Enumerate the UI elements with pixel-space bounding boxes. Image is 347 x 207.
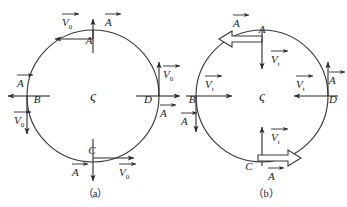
veclabel-acceleration-at-b: A (16, 75, 33, 89)
veclabel-velocity-at-a-b: Vt (271, 51, 288, 68)
veclabel-text-acceleration-at-c: A (71, 166, 79, 178)
caption-panel-b: （b） (253, 188, 278, 199)
veclabel-velocity-at-a: V0 (62, 14, 79, 31)
point-label-b-bottom: C (245, 160, 253, 172)
veclabel-acceleration-at-c: A (71, 164, 88, 178)
veclabel-text-velocity-at-d: V0 (163, 68, 174, 83)
point-label-a-top: A (85, 34, 93, 46)
point-label-b-right: D (328, 93, 337, 105)
point-label-a-right: D (143, 93, 152, 105)
veclabel-text-velocity-at-a-b: Vt (271, 53, 280, 68)
veclabel-text-velocity-at-d-b: Vt (296, 78, 305, 93)
veclabel-text-acceleration-at-b-b: A (180, 115, 188, 127)
veclabel-acceleration-at-c-b: A (267, 168, 284, 182)
veclabel-acceleration-at-d-b: A (328, 72, 345, 86)
veclabel-acceleration-at-a: A (104, 14, 121, 28)
veclabel-text-acceleration-at-b: A (16, 77, 24, 89)
veclabel-text-velocity-at-c: V0 (119, 166, 130, 181)
veclabel-text-velocity-at-c-b: Vt (271, 131, 280, 146)
veclabel-text-velocity-at-b-b: Vt (205, 78, 214, 93)
veclabel-velocity-at-c: V0 (119, 164, 136, 181)
veclabel-velocity-at-d-b: Vt (296, 76, 313, 93)
veclabel-text-acceleration-at-d-b: A (328, 74, 336, 86)
veclabel-text-acceleration-at-d: A (159, 107, 167, 119)
panel-a: ς A B C D V0 A A (8, 14, 180, 199)
veclabel-text-velocity-at-b: V0 (14, 114, 25, 129)
caption-panel-a: （a） (83, 188, 108, 199)
veclabel-text-velocity-at-a: V0 (62, 16, 73, 31)
veclabel-text-acceleration-at-a-b: A (232, 17, 240, 29)
point-label-a-left: B (34, 93, 41, 105)
center-symbol-a: ς (90, 88, 97, 104)
veclabel-velocity-at-c-b: Vt (271, 129, 288, 146)
point-label-b-left: B (189, 93, 196, 105)
circular-motion-diagram: ς A B C D V0 A A (0, 0, 347, 207)
veclabel-velocity-at-b-b: Vt (205, 76, 222, 93)
veclabel-acceleration-at-d: A (159, 105, 176, 119)
veclabel-velocity-at-d: V0 (163, 66, 180, 83)
veclabel-text-acceleration-at-a: A (104, 16, 112, 28)
veclabel-acceleration-at-a-b: A (232, 15, 249, 29)
center-symbol-b: ς (259, 88, 266, 104)
panel-b: ς A B C D A Vt Vt (180, 15, 345, 199)
veclabel-acceleration-at-b-b: A (180, 113, 197, 127)
veclabel-text-acceleration-at-c-b: A (267, 170, 275, 182)
block-arrow-acceleration-at-c (258, 150, 301, 166)
point-label-a-bottom: C (88, 144, 96, 156)
figure-root: ς A B C D V0 A A (0, 0, 347, 207)
veclabel-velocity-at-b: V0 (14, 112, 31, 129)
